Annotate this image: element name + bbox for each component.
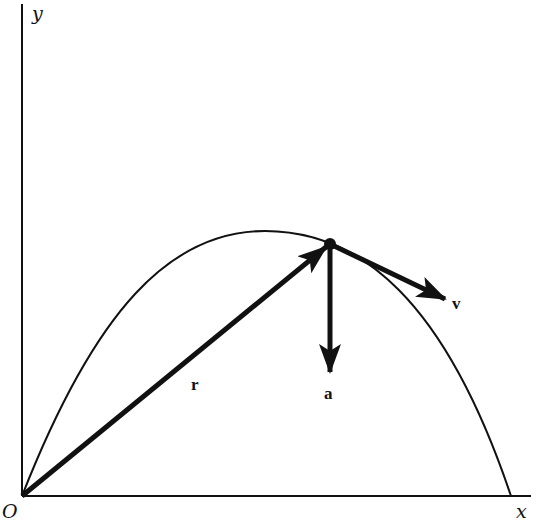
position-vector-label: r bbox=[191, 375, 199, 394]
projectile-diagram: y x O r v a bbox=[0, 0, 547, 528]
acceleration-vector-label: a bbox=[324, 384, 333, 403]
velocity-vector-v bbox=[330, 244, 445, 299]
x-axis-label: x bbox=[516, 500, 527, 522]
particle-point bbox=[324, 238, 336, 250]
y-axis-label: y bbox=[31, 2, 43, 24]
origin-label: O bbox=[2, 500, 18, 522]
position-vector-r bbox=[22, 247, 326, 496]
trajectory-curve bbox=[22, 231, 511, 496]
velocity-vector-label: v bbox=[452, 294, 461, 313]
